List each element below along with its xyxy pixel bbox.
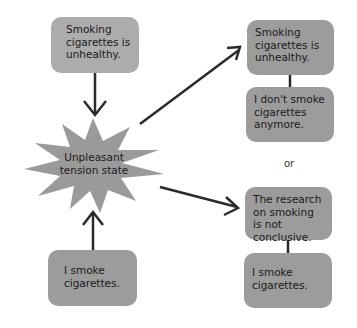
arrow-tension-to-resolution-a: [140, 47, 240, 124]
arrow-behavior-to-tension: [83, 212, 103, 250]
behavior-box-text: I smoke cigarettes.: [64, 264, 120, 289]
resolution-a-top-text: Smoking cigarettes is unhealthy.: [255, 26, 319, 63]
or-separator: or: [284, 158, 294, 169]
or-separator-text: or: [284, 158, 294, 169]
resolution-a-top-box: Smoking cigarettes is unhealthy.: [247, 20, 334, 75]
behavior-box: I smoke cigarettes.: [48, 250, 137, 306]
resolution-b-bottom-text: I smoke cigarettes.: [252, 266, 308, 291]
resolution-b-bottom-box: I smoke cigarettes.: [244, 253, 332, 308]
arrow-belief-to-tension: [84, 73, 106, 115]
resolution-a-bottom-text: I don't smoke cigarettes anymore.: [254, 93, 325, 130]
belief-box-text: Smoking cigarettes is unhealthy.: [66, 23, 130, 60]
belief-box: Smoking cigarettes is unhealthy.: [51, 17, 139, 73]
resolution-a-bottom-box: I don't smoke cigarettes anymore.: [246, 87, 334, 142]
tension-state-label: Unpleasant tension state: [58, 151, 130, 176]
tension-state-text: Unpleasant tension state: [60, 151, 129, 176]
resolution-b-top-text: The research on smoking is not conclusiv…: [253, 193, 321, 243]
resolution-b-top-box: The research on smoking is not conclusiv…: [245, 187, 332, 240]
arrow-tension-to-resolution-b: [160, 187, 238, 215]
